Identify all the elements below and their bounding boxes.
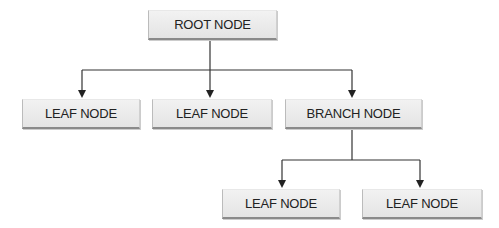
branch-node: BRANCH NODE: [285, 99, 422, 129]
root-node: ROOT NODE: [148, 10, 277, 40]
arrow-head-icon: [278, 180, 286, 188]
arrow-head-icon: [348, 90, 356, 98]
leaf-node-4: LEAF NODE: [362, 189, 482, 219]
leaf-node-3: LEAF NODE: [222, 189, 340, 219]
arrow-head-icon: [416, 180, 424, 188]
arrow-head-icon: [206, 90, 214, 98]
leaf-node-2: LEAF NODE: [152, 99, 272, 129]
leaf-node-1: LEAF NODE: [22, 99, 140, 129]
arrow-head-icon: [78, 90, 86, 98]
